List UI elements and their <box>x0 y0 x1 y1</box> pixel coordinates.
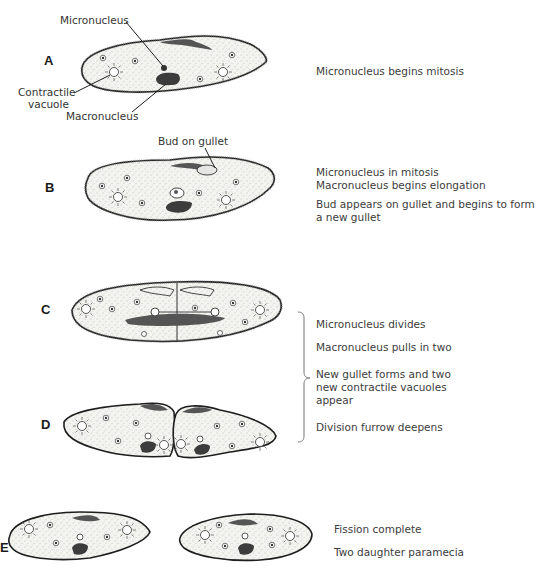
callout-bud-on-gullet: Bud on gullet <box>158 135 228 147</box>
description-line: Fission complete <box>334 523 464 536</box>
paramecium-stage-e-daughter-2 <box>180 514 312 560</box>
callout-micronucleus: Micronucleus <box>60 14 129 26</box>
paramecium-stage-a <box>74 22 266 112</box>
callout-contractile-vacuole-line-2: vacuole <box>18 98 75 110</box>
description-line: Macronucleus begins elongation <box>316 179 535 192</box>
description-line: Macronucleus pulls in two <box>316 341 452 354</box>
paramecium-stage-e-daughter-1 <box>9 512 150 560</box>
description-stage-a: Micronucleus begins mitosis <box>316 65 464 78</box>
description-line: new contractile vacuoles <box>316 381 452 394</box>
bracket-c-d <box>298 312 310 442</box>
stage-label-d: D <box>41 417 50 432</box>
description-line: appear <box>316 394 452 407</box>
paramecium-stage-b <box>85 148 274 220</box>
stage-label-a: A <box>44 53 53 68</box>
description-line: a new gullet <box>316 211 535 224</box>
callout-contractile-vacuole: Contractile vacuole <box>18 86 75 110</box>
description-stage-c-d: Micronucleus divides Macronucleus pulls … <box>316 318 452 434</box>
description-line: Two daughter paramecia <box>334 546 464 559</box>
description-stage-b: Micronucleus in mitosis Macronucleus beg… <box>316 166 535 224</box>
description-line: Bud appears on gullet and begins to form <box>316 198 535 211</box>
stage-label-c: C <box>41 302 50 317</box>
description-line: Micronucleus begins mitosis <box>316 65 464 78</box>
callout-macronucleus: Macronucleus <box>66 110 138 122</box>
description-line: Micronucleus divides <box>316 318 452 331</box>
description-line: New gullet forms and two <box>316 368 452 381</box>
paramecium-illustrations <box>0 0 536 578</box>
callout-contractile-vacuole-line-1: Contractile <box>18 86 75 98</box>
paramecium-stage-c <box>72 282 281 342</box>
paramecium-stage-d <box>64 403 276 457</box>
description-line: Micronucleus in mitosis <box>316 166 535 179</box>
description-stage-e: Fission complete Two daughter paramecia <box>334 523 464 559</box>
stage-label-b: B <box>45 180 54 195</box>
stage-label-e: E <box>0 540 9 555</box>
description-line: Division furrow deepens <box>316 421 452 434</box>
